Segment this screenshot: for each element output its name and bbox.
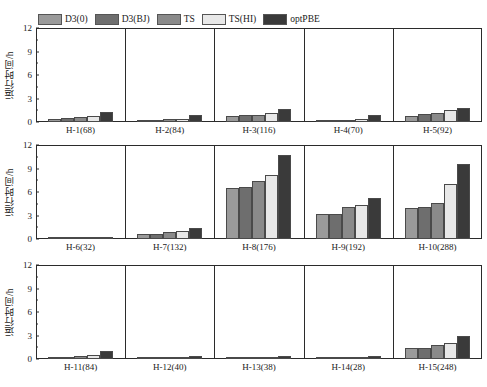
bar [100,351,113,359]
bar [342,357,355,359]
bar-group [125,265,214,359]
bar [239,357,252,359]
panel-separator [125,28,126,122]
bar [265,357,278,359]
chart-panel: H-1(68) [36,28,125,122]
bar [418,207,431,239]
bar [329,357,342,359]
chart-panel: H-13(38) [214,265,303,359]
bar [405,348,418,360]
bar [226,116,239,122]
legend-label: D3(BJ) [122,15,150,24]
bar [61,357,74,359]
bar [431,113,444,122]
chart-panel: H-9(192) [304,145,393,239]
legend-swatch-icon [95,14,119,25]
chart-panel: H-6(32) [36,145,125,239]
bar [100,237,113,239]
bar [48,237,61,239]
bar [137,120,150,122]
chart-panel: H-2(84) [125,28,214,122]
bar-group [304,265,393,359]
bar-group [214,265,303,359]
panel-separator [393,145,394,239]
panel-separator [214,145,215,239]
y-axis-title: 运行时间/h [3,265,17,359]
y-axis-tick-label: 12 [23,140,36,150]
chart-panel: H-5(92) [393,28,482,122]
bar [74,237,87,239]
bar [457,108,470,122]
legend-item: TS [157,14,195,25]
y-axis-tick-label: 3 [28,94,37,104]
bar-group [393,265,482,359]
x-axis-panel-label: H-11(84) [36,362,125,372]
bar-group [36,265,125,359]
bar [342,120,355,122]
bar [265,175,278,239]
bar [252,181,265,239]
chart-panel: H-8(176) [214,145,303,239]
x-axis-panel-label: H-15(248) [393,362,482,372]
chart-panel: H-4(70) [304,28,393,122]
bar [405,116,418,122]
x-axis-panel-label: H-3(116) [214,125,303,135]
bar-group [304,145,393,239]
bar [355,357,368,359]
bar-group [393,145,482,239]
bar [74,356,87,359]
y-axis-tick-label: 6 [28,187,37,197]
bar-group [36,145,125,239]
bar [87,116,100,122]
bar [278,155,291,239]
y-axis-tick-label: 9 [28,284,37,294]
y-axis-tick-label: 0 [28,117,37,127]
bar [418,348,431,360]
bar [87,237,100,239]
x-axis-panel-label: H-9(192) [304,242,393,252]
x-axis-panel-label: H-6(32) [36,242,125,252]
bar [252,115,265,122]
bar [100,112,113,122]
bar-chart-figure: D3(0)D3(BJ)TSTS(HI)optPBE 036912运行时间/hH-… [0,0,487,387]
bar [189,356,202,359]
bar [368,198,381,239]
bar [368,356,381,359]
bar [163,232,176,239]
bar [163,119,176,122]
bar [239,187,252,239]
chart-panel: H-10(288) [393,145,482,239]
bar [176,231,189,239]
y-axis-tick-label: 12 [23,260,36,270]
chart-panel: H-14(28) [304,265,393,359]
bar [355,119,368,122]
chart-legend: D3(0)D3(BJ)TSTS(HI)optPBE [38,13,327,26]
y-axis-tick-label: 12 [23,23,36,33]
x-axis-panel-label: H-10(288) [393,242,482,252]
chart-panel: H-11(84) [36,265,125,359]
bar [150,234,163,239]
bar-group [304,28,393,122]
legend-label: TS(HI) [229,15,256,24]
bar [457,336,470,359]
bar [444,184,457,239]
panel-separator [393,265,394,359]
legend-item: optPBE [263,14,320,25]
bar [150,357,163,359]
legend-item: D3(0) [38,14,88,25]
bar [431,345,444,359]
x-axis-panel-label: H-5(92) [393,125,482,135]
bar [431,203,444,239]
bar [163,357,176,359]
legend-swatch-icon [263,14,287,25]
x-axis-panel-label: H-13(38) [214,362,303,372]
x-axis-panel-label: H-8(176) [214,242,303,252]
y-axis-tick-label: 3 [28,211,37,221]
panel-separator [304,28,305,122]
panel-separator [214,28,215,122]
bar [48,119,61,122]
legend-swatch-icon [157,14,181,25]
chart-row: 036912运行时间/hH-1(68)H-2(84)H-3(116)H-4(70… [36,28,482,122]
x-axis-panel-label: H-2(84) [125,125,214,135]
y-axis-tick-label: 3 [28,331,37,341]
